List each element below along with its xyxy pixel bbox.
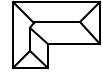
top-left-hip-line xyxy=(13,2,34,23)
l-shaped-hip-roof-icon xyxy=(0,0,103,76)
valley-line xyxy=(30,23,48,44)
right-hip-lines xyxy=(80,2,100,44)
bottom-hip-lines xyxy=(13,51,48,68)
roof-outline xyxy=(13,2,100,68)
